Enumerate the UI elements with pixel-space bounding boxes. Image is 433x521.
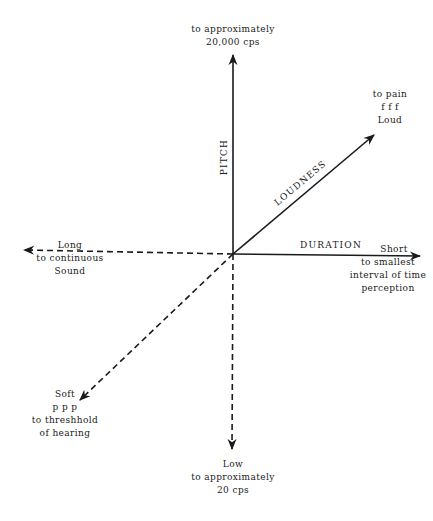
- label-line: Loud: [360, 114, 420, 127]
- label-line: to threshhold: [30, 414, 100, 427]
- loudness-axis-up-right: [233, 135, 374, 254]
- label-line: Long: [30, 239, 110, 252]
- label-line: Sound: [30, 265, 110, 278]
- pitch-axis-down: [232, 254, 233, 449]
- label-line: perception: [344, 282, 432, 295]
- pitch-axis-label: PITCH: [219, 139, 229, 175]
- label-line: to approximately: [190, 471, 276, 484]
- loudness-soft-label: Soft p p p to threshhold of hearing: [30, 388, 100, 440]
- label-line: 20 cps: [190, 484, 276, 497]
- label-line: p p p: [30, 401, 100, 414]
- pitch-high-label: to approximately 20,000 cps: [180, 23, 286, 49]
- label-line: to approximately: [180, 23, 286, 36]
- duration-short-label: Short to smallest interval of time perce…: [350, 243, 432, 295]
- label-line: 20,000 cps: [180, 36, 286, 49]
- duration-long-label: Long to continuous Sound: [30, 239, 110, 278]
- label-line: interval of time: [344, 269, 432, 282]
- loudness-loud-label: to pain f f f Loud: [360, 88, 420, 127]
- label-line: Soft: [30, 388, 100, 401]
- label-line: of hearing: [30, 427, 100, 440]
- label-line: to pain: [360, 88, 420, 101]
- label-line: to continuous: [30, 252, 110, 265]
- label-line: Short: [356, 243, 432, 256]
- pitch-low-label: Low to approximately 20 cps: [190, 458, 276, 497]
- label-line: to smallest: [344, 256, 432, 269]
- label-line: f f f: [360, 101, 420, 114]
- label-line: Low: [190, 458, 276, 471]
